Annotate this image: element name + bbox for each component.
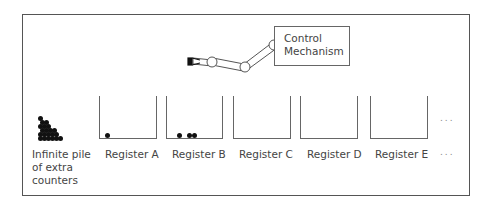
counter [192, 133, 197, 138]
counter [105, 133, 110, 138]
control-mechanism-box: Control Mechanism [274, 26, 350, 66]
counter [177, 133, 182, 138]
continuation-ellipsis-bottom: ... [440, 147, 455, 157]
register-e [370, 96, 428, 139]
register-c-label: Register C [239, 148, 293, 160]
register-b-label: Register B [172, 148, 226, 160]
register-c [233, 96, 291, 139]
register-d [300, 96, 358, 139]
register-d-label: Register D [307, 148, 362, 160]
control-label-line2: Mechanism [284, 45, 349, 58]
pile-label: Infinite pile of extra counters [32, 148, 91, 187]
register-a-label: Register A [105, 148, 159, 160]
control-label-line1: Control [284, 32, 349, 45]
register-e-label: Register E [375, 148, 428, 160]
continuation-ellipsis-top: ... [440, 113, 455, 123]
